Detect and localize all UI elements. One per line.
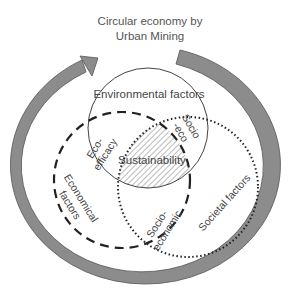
title-line-2: Urban Mining [60,29,240,44]
economical-label: Economical factors [51,172,101,231]
title-line-1: Circular economy by [60,14,240,29]
socio-economic-label: Socio- economic [140,202,184,253]
sustainability-label: Sustainability [118,154,186,166]
diagram-title: Circular economy by Urban Mining [60,14,240,44]
environmental-label: Environmental factors [93,88,204,100]
circular-economy-diagram: Circular economy by Urban Mining [0,0,298,301]
eco-efficacy-label: Eco- efficacy [80,129,120,172]
